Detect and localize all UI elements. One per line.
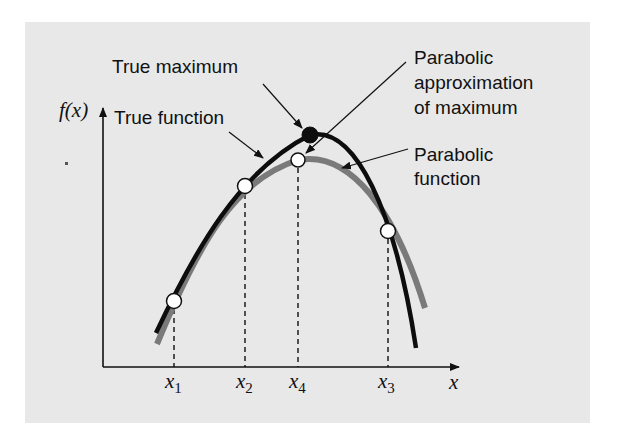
parabolic-interpolation-diagram: True maximum True function Parabolic app…	[0, 0, 619, 442]
stray-speck	[65, 162, 68, 165]
point-x4-parabolic-max	[291, 153, 305, 167]
label-true-maximum: True maximum	[112, 56, 238, 77]
label-parabolic-approx-2: approximation	[414, 72, 533, 93]
point-x3	[381, 224, 396, 239]
label-parabolic-approx-3: of maximum	[414, 97, 517, 118]
label-parabolic-function-1: Parabolic	[414, 144, 493, 165]
point-true-maximum	[302, 127, 318, 143]
point-x1	[167, 294, 182, 309]
point-x2	[238, 179, 253, 194]
label-true-function: True function	[114, 107, 224, 128]
x-axis-label: x	[448, 370, 459, 394]
y-axis-label: f(x)	[59, 98, 88, 122]
label-parabolic-approx-1: Parabolic	[414, 47, 493, 68]
label-parabolic-function-2: function	[414, 168, 481, 189]
